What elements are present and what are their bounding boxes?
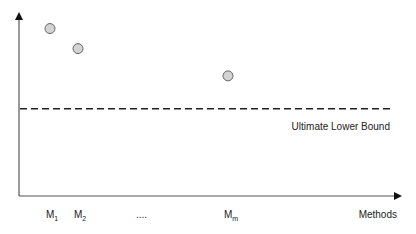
x-tick-label: ....: [136, 209, 147, 220]
x-tick-label: M2: [74, 209, 86, 222]
x-axis-label: Methods: [359, 209, 397, 220]
data-point-m1: [45, 24, 55, 34]
data-point-mm: [223, 71, 233, 81]
data-point-m2: [73, 44, 83, 54]
methods-lower-bound-diagram: Ultimate Lower Bound M1M2....Mm Methods: [0, 0, 416, 234]
x-tick-label: M1: [46, 209, 58, 222]
x-tick-label: Mm: [224, 209, 238, 222]
lower-bound-label: Ultimate Lower Bound: [292, 121, 390, 132]
